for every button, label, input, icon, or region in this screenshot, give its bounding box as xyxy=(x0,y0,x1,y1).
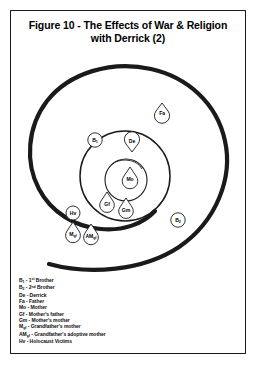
node-b2 xyxy=(171,213,185,227)
node-b1 xyxy=(88,133,102,147)
node-gm xyxy=(119,198,134,218)
node-de xyxy=(124,132,139,152)
spiral-diagram: Fa B1 De Mo Gf Gm Hv Mgf AMgf B2 xyxy=(11,49,247,277)
outer-spiral-path xyxy=(30,66,227,270)
legend-item-b2: B2 - 2nd Brother xyxy=(19,284,219,291)
legend-key: Gm xyxy=(19,317,27,323)
legend: B1 - 1st BrotherB2 - 2nd BrotherDe - Der… xyxy=(19,277,219,344)
legend-item-mgf: Mgf - Grandfather's mother xyxy=(19,323,219,330)
legend-description: Father xyxy=(29,298,44,304)
legend-description: Grandfather's adoptive mother xyxy=(34,331,105,337)
node-fa xyxy=(154,103,169,123)
legend-description: 2nd Brother xyxy=(29,284,55,290)
figure-frame: Figure 10 - The Effects of War & Religio… xyxy=(10,10,246,354)
legend-description: Holocaust Victims xyxy=(30,338,72,344)
page-title: Figure 10 - The Effects of War & Religio… xyxy=(11,19,245,45)
legend-key: AMgf xyxy=(19,331,30,337)
figure-title-line-1: Figure 10 - The Effects of War & Religio… xyxy=(29,19,228,31)
legend-item-amgf: AMgf - Grandfather's adoptive mother xyxy=(19,331,219,338)
legend-description: Derrick xyxy=(30,292,47,298)
node-mo xyxy=(122,167,138,189)
legend-description: Mother xyxy=(30,304,46,310)
legend-description: Grandfather's mother xyxy=(31,323,81,329)
legend-description: Mother's father xyxy=(29,311,64,317)
node-hv xyxy=(66,206,80,220)
legend-description: 1st Brother xyxy=(29,277,54,283)
legend-item-hv: Hv - Holocaust Victims xyxy=(19,338,219,344)
legend-item-b1: B1 - 1st Brother xyxy=(19,277,219,284)
figure-title-line-2: with Derrick (2) xyxy=(19,32,237,45)
legend-description: Mother's mother xyxy=(32,317,70,323)
